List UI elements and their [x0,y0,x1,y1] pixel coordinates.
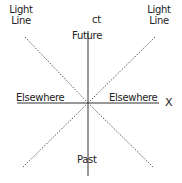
light-cone-diagram: Light Line Light Line ct Future Elsewher… [0,0,182,183]
time-axis-label: ct [92,14,101,25]
future-label: Future [72,30,102,41]
light-line-left-label: Light Line [6,4,36,26]
light-line-right-word1: Light [144,4,174,15]
space-axis-label: X [165,97,172,108]
past-label: Past [77,154,97,165]
elsewhere-left-label: Elsewhere [16,92,64,103]
light-line-left-word1: Light [6,4,36,15]
elsewhere-right-label: Elsewhere [109,92,157,103]
light-line-right-label: Light Line [144,4,174,26]
light-line-right-word2: Line [144,15,174,26]
light-line-lower-right [88,103,153,167]
light-line-left-word2: Line [6,15,36,26]
